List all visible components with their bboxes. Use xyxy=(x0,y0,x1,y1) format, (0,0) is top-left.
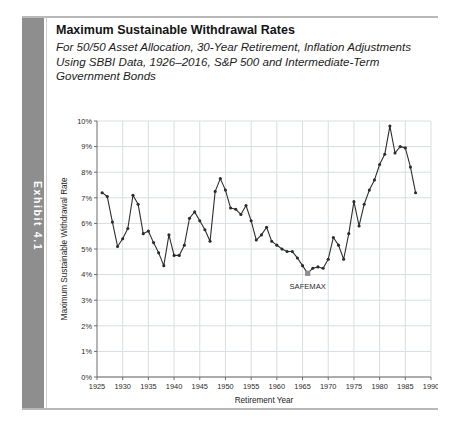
exhibit-tab: Exhibit 4.1 xyxy=(22,18,44,408)
top-divider xyxy=(22,16,438,18)
y-tick-label: 0% xyxy=(81,373,92,382)
data-point xyxy=(208,240,211,243)
x-tick-label: 1970 xyxy=(320,382,336,391)
safemax-marker xyxy=(305,271,310,276)
data-point xyxy=(409,166,412,169)
exhibit-tab-label: Exhibit 4.1 xyxy=(22,18,44,408)
x-tick-label: 1940 xyxy=(166,382,182,391)
data-point xyxy=(255,238,258,241)
x-tick-label: 1955 xyxy=(243,382,259,391)
data-point xyxy=(332,236,335,239)
exhibit-title: Maximum Sustainable Withdrawal Rates xyxy=(56,22,438,38)
y-tick-label: 1% xyxy=(81,347,92,356)
data-point xyxy=(111,221,114,224)
x-tick-label: 1975 xyxy=(346,382,362,391)
data-point xyxy=(270,240,273,243)
x-tick-label: 1930 xyxy=(114,382,130,391)
data-point xyxy=(399,145,402,148)
x-tick-label: 1985 xyxy=(397,382,413,391)
exhibit-subtitle: For 50/50 Asset Allocation, 30-Year Reti… xyxy=(56,40,438,84)
data-point xyxy=(404,146,407,149)
y-tick-label: 3% xyxy=(81,296,92,305)
bottom-divider xyxy=(22,408,438,410)
x-tick-label: 1925 xyxy=(89,382,105,391)
y-tick-label: 7% xyxy=(81,194,92,203)
y-tick-label: 10% xyxy=(77,117,92,126)
x-tick-label: 1945 xyxy=(192,382,208,391)
data-point xyxy=(229,206,232,209)
data-point xyxy=(234,208,237,211)
data-point xyxy=(322,267,325,270)
data-point xyxy=(393,151,396,154)
data-point xyxy=(363,203,366,206)
data-point xyxy=(358,224,361,227)
y-tick-label: 6% xyxy=(81,219,92,228)
data-point xyxy=(388,125,391,128)
x-tick-label: 1950 xyxy=(217,382,233,391)
data-point xyxy=(173,254,176,257)
data-point xyxy=(198,219,201,222)
data-point xyxy=(188,217,191,220)
x-tick-label: 1990 xyxy=(423,382,438,391)
data-point xyxy=(157,251,160,254)
data-point xyxy=(131,194,134,197)
x-tick-label: 1935 xyxy=(140,382,156,391)
data-point xyxy=(101,191,104,194)
data-point xyxy=(152,241,155,244)
data-point xyxy=(142,232,145,235)
data-point xyxy=(378,163,381,166)
data-point xyxy=(244,204,247,207)
data-point xyxy=(239,213,242,216)
y-tick-label: 2% xyxy=(81,322,92,331)
data-point xyxy=(147,230,150,233)
x-axis-title: Retirement Year xyxy=(235,396,294,404)
data-point xyxy=(203,228,206,231)
data-point xyxy=(327,258,330,261)
data-point xyxy=(275,244,278,247)
data-point xyxy=(291,250,294,253)
y-tick-label: 9% xyxy=(81,142,92,151)
data-point xyxy=(178,254,181,257)
data-point xyxy=(296,256,299,259)
data-point xyxy=(352,200,355,203)
data-point xyxy=(342,258,345,261)
data-point xyxy=(121,237,124,240)
data-point xyxy=(373,178,376,181)
y-tick-label: 8% xyxy=(81,168,92,177)
data-point xyxy=(337,244,340,247)
exhibit-container: Exhibit 4.1 Maximum Sustainable Withdraw… xyxy=(0,0,460,427)
y-tick-label: 5% xyxy=(81,245,92,254)
safemax-label: SAFEMAX xyxy=(290,282,326,291)
data-point xyxy=(280,247,283,250)
data-point xyxy=(162,264,165,267)
y-axis-title: Maximum Sustainable Withdrawal Rate xyxy=(60,177,69,320)
x-tick-label: 1960 xyxy=(269,382,285,391)
data-point xyxy=(116,245,119,248)
data-point xyxy=(126,227,129,230)
chart-area: 0%1%2%3%4%5%6%7%8%9%10%19251930193519401… xyxy=(56,108,438,404)
data-point xyxy=(183,244,186,247)
tab-divider xyxy=(46,18,47,408)
data-series-line xyxy=(102,126,415,273)
data-point xyxy=(301,264,304,267)
data-point xyxy=(265,226,268,229)
data-point xyxy=(260,233,263,236)
data-point xyxy=(193,210,196,213)
data-point xyxy=(347,232,350,235)
x-tick-label: 1980 xyxy=(371,382,387,391)
data-point xyxy=(286,250,289,253)
data-point xyxy=(219,177,222,180)
data-point xyxy=(137,203,140,206)
data-point xyxy=(316,265,319,268)
data-point xyxy=(368,189,371,192)
data-point xyxy=(214,190,217,193)
data-point xyxy=(250,219,253,222)
data-point xyxy=(383,153,386,156)
y-tick-label: 4% xyxy=(81,270,92,279)
withdrawal-rate-line-chart: 0%1%2%3%4%5%6%7%8%9%10%19251930193519401… xyxy=(56,108,438,404)
data-point xyxy=(224,189,227,192)
data-point xyxy=(414,191,417,194)
data-point xyxy=(106,195,109,198)
exhibit-header: Maximum Sustainable Withdrawal Rates For… xyxy=(56,22,438,84)
data-point xyxy=(167,233,170,236)
